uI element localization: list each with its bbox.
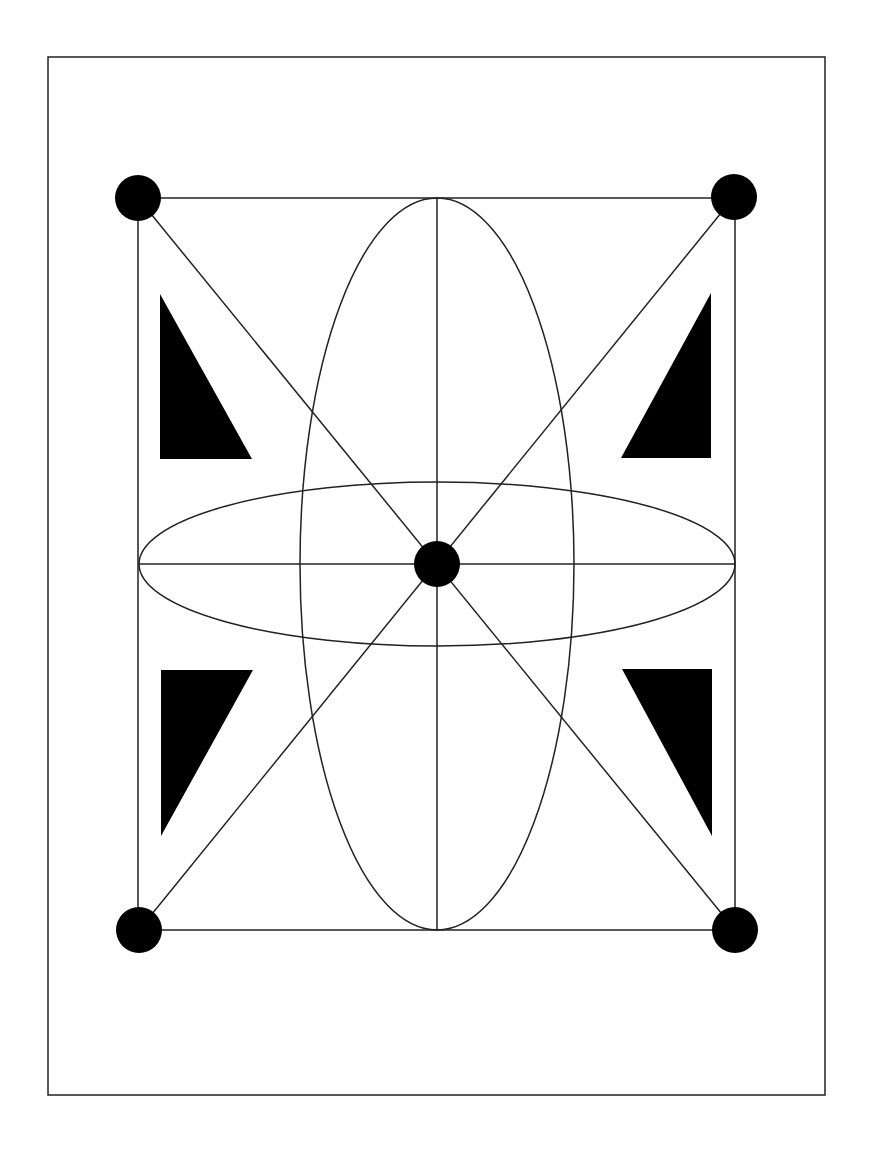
dot-bottom-left [116, 907, 162, 953]
geometric-figure [0, 0, 876, 1152]
dot-bottom-right [712, 907, 758, 953]
diagram-canvas: Geometric figure: rectangle with corner … [0, 0, 876, 1152]
dot-top-right [711, 174, 757, 220]
dot-top-left [115, 175, 161, 221]
dot-center [414, 541, 460, 587]
